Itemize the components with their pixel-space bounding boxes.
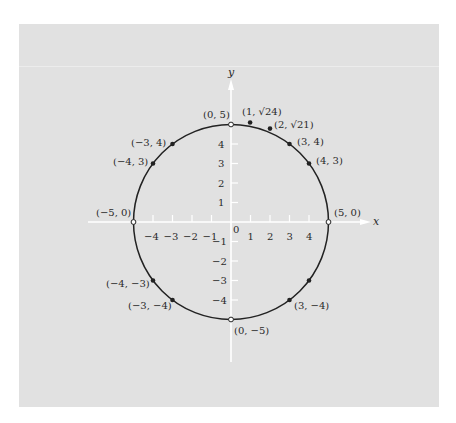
x-axis-arrow-icon (360, 219, 371, 225)
y-tick-label: 3 (218, 158, 224, 169)
point-3-neg4 (287, 298, 292, 303)
label-neg5-0: (−5, 0) (96, 207, 131, 218)
label-2-root21: (2, √21) (274, 119, 314, 130)
point-0-neg5 (229, 317, 234, 322)
x-tick-label: 2 (267, 231, 273, 242)
x-tick-label: −2 (183, 231, 198, 242)
label-4-3: (4, 3) (316, 155, 343, 166)
point-0-5 (229, 122, 234, 127)
point-neg4-3 (151, 161, 156, 166)
x-tick-label: −3 (164, 231, 179, 242)
y-tick-label: 4 (218, 139, 224, 150)
y-tick-label: −1 (212, 236, 227, 247)
point-4-neg3 (307, 278, 312, 283)
y-tick-label: 1 (218, 197, 224, 208)
point-5-0 (326, 220, 331, 225)
y-tick-label: −4 (212, 295, 227, 306)
y-axis-label: y (227, 66, 235, 79)
x-axis-label: x (373, 215, 380, 228)
label-5-0: (5, 0) (334, 207, 361, 218)
x-tick-label: 3 (287, 231, 293, 242)
x-tick-label: 1 (248, 231, 254, 242)
point-2-root21 (268, 126, 273, 131)
point-4-3 (307, 161, 312, 166)
y-tick-label: −3 (212, 275, 227, 286)
origin-label: 0 (233, 224, 239, 235)
label-neg3-neg4: (−3, −4) (128, 300, 172, 311)
point-1-root24 (248, 120, 253, 125)
label-3-neg4: (3, −4) (294, 300, 329, 311)
label-0-neg5: (0, −5) (234, 325, 269, 336)
label-neg4-3: (−4, 3) (113, 156, 148, 167)
y-axis-arrow-icon (228, 79, 234, 90)
point-neg4-neg3 (151, 278, 156, 283)
circle-plot: y x −4 −3 −2 −1 0 1 2 3 4 4 3 2 1 −1 −2 … (0, 0, 456, 423)
x-tick-label: 4 (306, 231, 312, 242)
point-neg5-0 (131, 220, 136, 225)
x-tick-label: −4 (144, 231, 159, 242)
point-3-4 (287, 142, 292, 147)
y-tick-label: 2 (218, 178, 224, 189)
label-1-root24: (1, √24) (242, 106, 282, 117)
label-neg4-neg3: (−4, −3) (106, 278, 150, 289)
label-3-4: (3, 4) (297, 136, 324, 147)
y-tick-label: −2 (212, 256, 227, 267)
point-neg3-4 (170, 142, 175, 147)
label-0-5: (0, 5) (203, 109, 230, 120)
label-neg3-4: (−3, 4) (131, 137, 166, 148)
